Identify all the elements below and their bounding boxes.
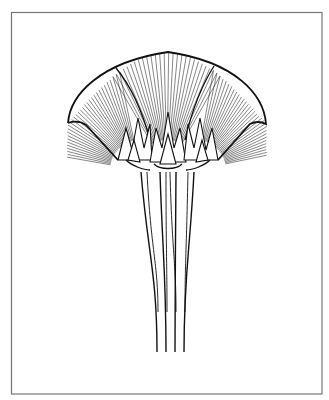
central-buds bbox=[118, 112, 218, 164]
frame-border bbox=[12, 13, 323, 395]
papyrus-drawing bbox=[0, 0, 329, 400]
stems bbox=[141, 172, 194, 352]
